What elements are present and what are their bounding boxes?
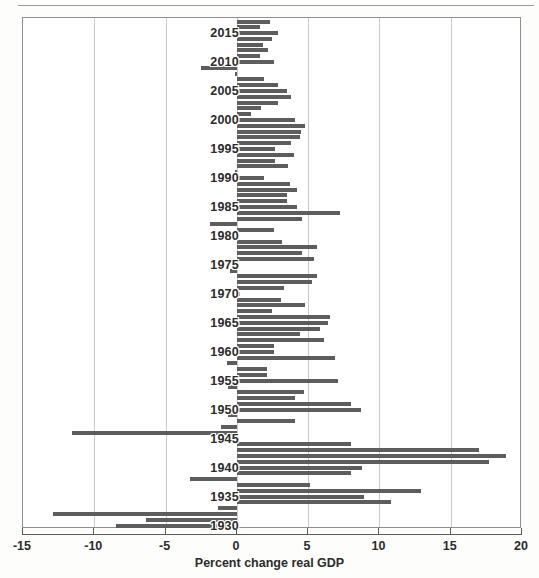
bar-1992 <box>237 164 288 168</box>
year-label-1960: 1960 <box>23 345 239 359</box>
bar-1981 <box>237 228 274 232</box>
bar-2003 <box>237 101 278 105</box>
bar-2012 <box>237 48 268 52</box>
bar-1990 <box>237 176 264 180</box>
bar-1951 <box>237 402 351 406</box>
year-label-1950: 1950 <box>23 403 239 417</box>
year-label-1995: 1995 <box>23 142 239 156</box>
bar-1978 <box>237 245 317 249</box>
bar-2011 <box>237 54 260 58</box>
bar-1996 <box>237 141 291 145</box>
bar-1973 <box>237 274 317 278</box>
bar-1995 <box>237 147 276 151</box>
bar-1968 <box>237 303 305 307</box>
bar-1936 <box>237 489 421 493</box>
xtick-20 <box>521 528 522 535</box>
year-label-1975: 1975 <box>23 258 239 272</box>
bar-1966 <box>237 315 330 319</box>
bar-1940 <box>237 466 363 470</box>
bar-2002 <box>237 106 261 110</box>
xtick--15 <box>22 528 23 535</box>
bar-1953 <box>237 390 304 394</box>
bar-2013 <box>237 43 263 47</box>
bar-1993 <box>237 159 276 163</box>
xtick--10 <box>93 528 94 535</box>
bar-1944 <box>237 442 351 446</box>
bar-1982 <box>210 222 237 226</box>
bar-2008 <box>235 72 236 76</box>
bar-1984 <box>237 211 340 215</box>
bar-1941 <box>237 460 489 464</box>
bar-1985 <box>237 205 297 209</box>
xtick-label-15: 15 <box>443 539 457 553</box>
bar-1937 <box>237 483 310 487</box>
year-label-2005: 2005 <box>23 84 239 98</box>
bar-1947 <box>221 425 237 429</box>
bar-2000 <box>237 118 296 122</box>
bar-2005 <box>237 89 287 93</box>
xtick-label-0: 0 <box>232 539 239 553</box>
bar-1972 <box>237 280 313 284</box>
x-axis-line <box>22 534 521 535</box>
year-label-1970: 1970 <box>23 287 239 301</box>
bar-1960 <box>237 350 274 354</box>
bar-1942 <box>237 454 507 458</box>
xtick-label--15: -15 <box>13 539 31 553</box>
bar-1964 <box>237 327 320 331</box>
bar-1962 <box>237 338 324 342</box>
bar-1967 <box>237 309 273 313</box>
bar-1934 <box>237 500 391 504</box>
bar-1999 <box>237 124 305 128</box>
bar-1948 <box>237 419 296 423</box>
bar-1938 <box>190 477 237 481</box>
bar-1957 <box>237 367 267 371</box>
bar-1956 <box>237 373 267 377</box>
xtick-label-5: 5 <box>304 539 311 553</box>
bar-1963 <box>237 332 300 336</box>
bar-1987 <box>237 193 287 197</box>
xtick-label--5: -5 <box>159 539 170 553</box>
year-label-2010: 2010 <box>23 55 239 69</box>
bar-2017 <box>237 20 270 24</box>
bar-1950 <box>237 408 361 412</box>
bar-1958 <box>227 361 237 365</box>
bar-1955 <box>237 379 338 383</box>
year-label-2000: 2000 <box>23 113 239 127</box>
bar-1997 <box>237 135 300 139</box>
bar-1979 <box>237 240 283 244</box>
bar-1983 <box>237 217 303 221</box>
bar-1998 <box>237 130 301 134</box>
xtick-label-10: 10 <box>371 539 385 553</box>
header-divider <box>18 5 534 6</box>
year-label-2015: 2015 <box>23 26 239 40</box>
bar-1952 <box>237 396 296 400</box>
bar-1965 <box>237 321 328 325</box>
bar-1961 <box>237 344 274 348</box>
bar-1986 <box>237 199 287 203</box>
bar-1959 <box>237 356 335 360</box>
bar-1969 <box>237 298 281 302</box>
bar-1971 <box>237 286 284 290</box>
year-label-1945: 1945 <box>23 432 239 446</box>
year-label-1965: 1965 <box>23 316 239 330</box>
year-label-1935: 1935 <box>23 490 239 504</box>
bar-2015 <box>237 31 278 35</box>
xtick-label-20: 20 <box>514 539 528 553</box>
x-axis-title: Percent change real GDP <box>0 556 539 570</box>
year-label-1990: 1990 <box>23 171 239 185</box>
bar-1939 <box>237 471 351 475</box>
xtick-15 <box>450 528 451 535</box>
bar-1976 <box>237 257 314 261</box>
bar-1935 <box>237 495 364 499</box>
bar-2006 <box>237 83 278 87</box>
bar-1943 <box>237 448 479 452</box>
year-label-1985: 1985 <box>23 200 239 214</box>
bar-1932 <box>53 512 237 516</box>
year-label-1980: 1980 <box>23 229 239 243</box>
year-label-1940: 1940 <box>23 461 239 475</box>
chart-page: 1930193519401945195019551960196519701975… <box>0 0 539 578</box>
xtick-0 <box>236 528 237 535</box>
year-label-1955: 1955 <box>23 374 239 388</box>
bar-1977 <box>237 251 303 255</box>
xtick-label--10: -10 <box>84 539 102 553</box>
